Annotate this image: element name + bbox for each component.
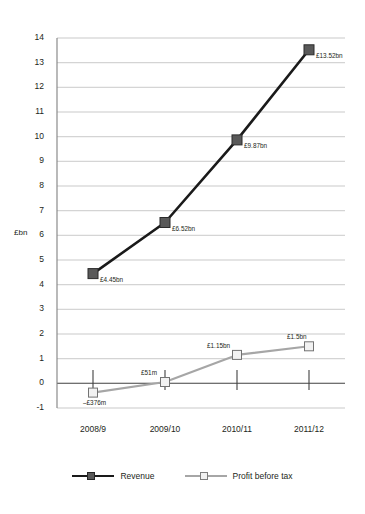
x-tick-label: 2010/11: [202, 424, 272, 434]
data-label-profit-before-tax: –£376m: [83, 399, 106, 406]
data-label-revenue: £9.87bn: [244, 142, 267, 149]
series-markers-revenue: [88, 45, 314, 279]
plot-area: [0, 0, 365, 514]
legend-item-profit-before-tax: Profit before tax: [185, 470, 293, 482]
data-label-revenue: £6.52bn: [172, 225, 195, 232]
legend-square-icon: [87, 472, 95, 480]
gridlines: [57, 38, 345, 408]
series-line-revenue: [93, 50, 309, 274]
chart-legend: Revenue Profit before tax: [0, 470, 365, 482]
x-tick-label: 2008/9: [58, 424, 128, 434]
data-label-profit-before-tax: £1.15bn: [207, 342, 230, 349]
data-label-profit-before-tax: £1.5bn: [287, 333, 307, 340]
x-tick-label: 2009/10: [130, 424, 200, 434]
series-line-profit-before-tax: [93, 346, 309, 392]
legend-label-revenue: Revenue: [120, 471, 154, 481]
legend-square-icon: [200, 472, 208, 480]
legend-swatch-profit-before-tax: [185, 470, 227, 482]
legend-swatch-revenue: [72, 470, 114, 482]
data-label-profit-before-tax: £51m: [141, 369, 157, 376]
legend-item-revenue: Revenue: [72, 470, 154, 482]
line-chart: £bn 14 13 12 11 10 9 8 7 6 5 4 3 2 1 0 -…: [0, 0, 365, 514]
legend-label-profit-before-tax: Profit before tax: [233, 471, 293, 481]
x-tick-label: 2011/12: [274, 424, 344, 434]
data-label-revenue: £13.52bn: [316, 52, 343, 59]
data-label-revenue: £4.45bn: [100, 276, 123, 283]
